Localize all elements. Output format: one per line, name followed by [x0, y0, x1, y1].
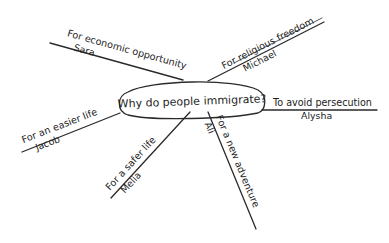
center-label: Why do people immigrate?	[117, 92, 266, 110]
underline	[234, 18, 322, 63]
center-node: Why do people immigrate?	[117, 82, 266, 119]
branch-reason: To avoid persecution	[272, 97, 372, 108]
branch-person: Alysha	[301, 110, 332, 121]
branch-religious: For religious freedom Michael	[208, 15, 324, 82]
branch-adventure: For a new adventure Ali	[202, 112, 262, 229]
branch-persecution: To avoid persecution Alysha	[262, 97, 377, 121]
branch-reason: For a new adventure	[214, 113, 262, 209]
mind-map: Why do people immigrate? For economic op…	[0, 0, 389, 243]
branch-safer: For a safer life Melia	[103, 112, 190, 201]
branch-easier: For an easier life Jacob	[20, 106, 120, 156]
branch-economic: For economic opportunity Sara	[50, 27, 188, 82]
branch-person: Ali	[203, 120, 218, 135]
